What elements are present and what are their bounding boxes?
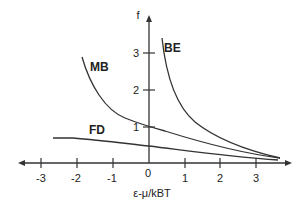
distribution-chart: -3 -2 -1 0 1 2 3 1 2 3 f ε-μ/kBT MB BE F… bbox=[0, 0, 303, 209]
be-label: BE bbox=[164, 41, 181, 55]
x-tick-label: 2 bbox=[217, 172, 223, 184]
y-axis-arrow-icon bbox=[146, 15, 152, 22]
x-tick-label: 3 bbox=[253, 172, 259, 184]
x-tick-label: 0 bbox=[145, 167, 151, 179]
x-axis-left-arrow-icon bbox=[18, 160, 25, 166]
x-tick-label: 1 bbox=[182, 172, 188, 184]
x-axis-right-arrow-icon bbox=[285, 160, 292, 166]
be-curve bbox=[162, 38, 280, 158]
fd-curve bbox=[53, 138, 278, 160]
x-tick-label: -2 bbox=[71, 172, 81, 184]
y-tick-label: 2 bbox=[133, 84, 139, 96]
mb-curve bbox=[82, 57, 280, 158]
mb-label: MB bbox=[90, 60, 109, 74]
x-tick-label: -3 bbox=[36, 172, 46, 184]
y-tick-label: 3 bbox=[133, 47, 139, 59]
x-axis-label: ε-μ/kBT bbox=[133, 187, 171, 199]
x-tick-label: -1 bbox=[107, 172, 117, 184]
y-axis-label: f bbox=[136, 9, 140, 21]
fd-label: FD bbox=[89, 123, 105, 137]
